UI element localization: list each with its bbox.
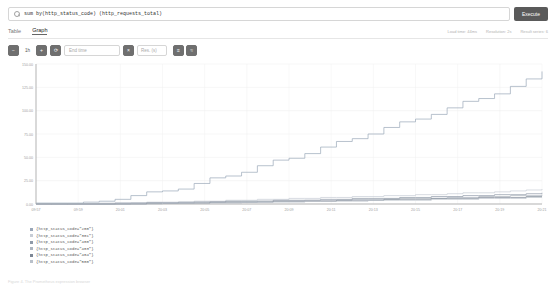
- svg-text:150.00: 150.00: [22, 63, 33, 67]
- legend-series-label: {http_status_code="500"}: [36, 260, 94, 264]
- series-legend: {http_status_code="200"}{http_status_cod…: [8, 226, 548, 265]
- legend-color-swatch: [30, 241, 33, 244]
- svg-text:20:15: 20:15: [411, 208, 420, 212]
- query-meta: Load time: 44ms Resolution: 2s Result se…: [447, 29, 548, 34]
- query-row: sum by(http_status_code) (http_requests_…: [8, 0, 548, 21]
- svg-text:09:59: 09:59: [74, 208, 83, 212]
- legend-color-swatch: [30, 247, 33, 250]
- svg-text:125.00: 125.00: [22, 86, 33, 90]
- svg-text:75.00: 75.00: [24, 133, 33, 137]
- legend-series-label: {http_status_code="404"}: [36, 253, 94, 257]
- query-input[interactable]: sum by(http_status_code) (http_requests_…: [24, 11, 162, 17]
- resolution-input[interactable]: Res. (s): [137, 45, 167, 56]
- load-time-label: Load time: 44ms: [447, 29, 477, 34]
- plus-icon: +: [40, 48, 43, 53]
- execute-button[interactable]: Execute: [514, 7, 548, 21]
- legend-color-swatch: [30, 228, 33, 231]
- svg-text:20:17: 20:17: [453, 208, 462, 212]
- svg-text:50.00: 50.00: [24, 156, 33, 160]
- svg-text:20:21: 20:21: [538, 208, 547, 212]
- svg-text:20:07: 20:07: [242, 208, 251, 212]
- svg-text:20:19: 20:19: [495, 208, 504, 212]
- time-range-value[interactable]: 1h: [22, 48, 33, 53]
- legend-series-label: {http_status_code="301"}: [36, 234, 94, 238]
- refresh-icon: ⟳: [54, 48, 58, 53]
- svg-text:20:03: 20:03: [158, 208, 167, 212]
- query-input-wrapper[interactable]: sum by(http_status_code) (http_requests_…: [8, 7, 510, 21]
- svg-text:100.00: 100.00: [22, 109, 33, 113]
- legend-color-swatch: [30, 234, 33, 237]
- graph-controls: − 1h + ⟳ End time × Res. (s) ≡ ≈: [8, 45, 548, 56]
- search-icon: [14, 11, 20, 17]
- svg-text:20:13: 20:13: [369, 208, 378, 212]
- prometheus-expression-browser: sum by(http_status_code) (http_requests_…: [0, 0, 556, 285]
- result-tabs: Table Graph Load time: 44ms Resolution: …: [8, 27, 548, 39]
- legend-color-swatch: [30, 260, 33, 263]
- lines-icon: ≈: [190, 48, 193, 53]
- resolution-label: Resolution: 2s: [486, 29, 511, 34]
- stacking-toggle-group: ≡ ≈: [173, 45, 197, 56]
- stacked-icon: ≡: [177, 48, 180, 53]
- svg-text:09:57: 09:57: [32, 208, 41, 212]
- figure-caption: Figure 4. The Prometheus expression brow…: [8, 279, 90, 284]
- zoom-in-button[interactable]: +: [36, 45, 47, 56]
- svg-text:20:09: 20:09: [285, 208, 294, 212]
- svg-text:20:11: 20:11: [327, 208, 336, 212]
- tab-graph[interactable]: Graph: [32, 27, 47, 35]
- close-icon: ×: [127, 48, 130, 53]
- legend-color-swatch: [30, 254, 33, 257]
- zoom-out-button[interactable]: −: [8, 45, 19, 56]
- legend-series-label: {http_status_code="200"}: [36, 227, 94, 231]
- legend-item[interactable]: {http_status_code="500"}: [30, 259, 548, 266]
- tab-table[interactable]: Table: [8, 28, 21, 35]
- result-series-label: Result series: 6: [520, 29, 548, 34]
- time-series-chart[interactable]: 0.0025.0050.0075.00100.00125.00150.0009:…: [8, 60, 548, 220]
- legend-series-label: {http_status_code="400"}: [36, 240, 94, 244]
- end-time-input[interactable]: End time: [64, 45, 120, 56]
- stacked-toggle-button[interactable]: ≡: [173, 45, 184, 56]
- svg-text:0.00: 0.00: [26, 203, 33, 207]
- minus-icon: −: [12, 48, 15, 53]
- lines-toggle-button[interactable]: ≈: [186, 45, 197, 56]
- graph-panel: 0.0025.0050.0075.00100.00125.00150.0009:…: [8, 60, 548, 220]
- refresh-button[interactable]: ⟳: [50, 45, 61, 56]
- svg-text:25.00: 25.00: [24, 179, 33, 183]
- svg-text:20:05: 20:05: [200, 208, 209, 212]
- clear-end-time-button[interactable]: ×: [123, 45, 134, 56]
- legend-series-label: {http_status_code="403"}: [36, 247, 94, 251]
- svg-text:20:01: 20:01: [116, 208, 125, 212]
